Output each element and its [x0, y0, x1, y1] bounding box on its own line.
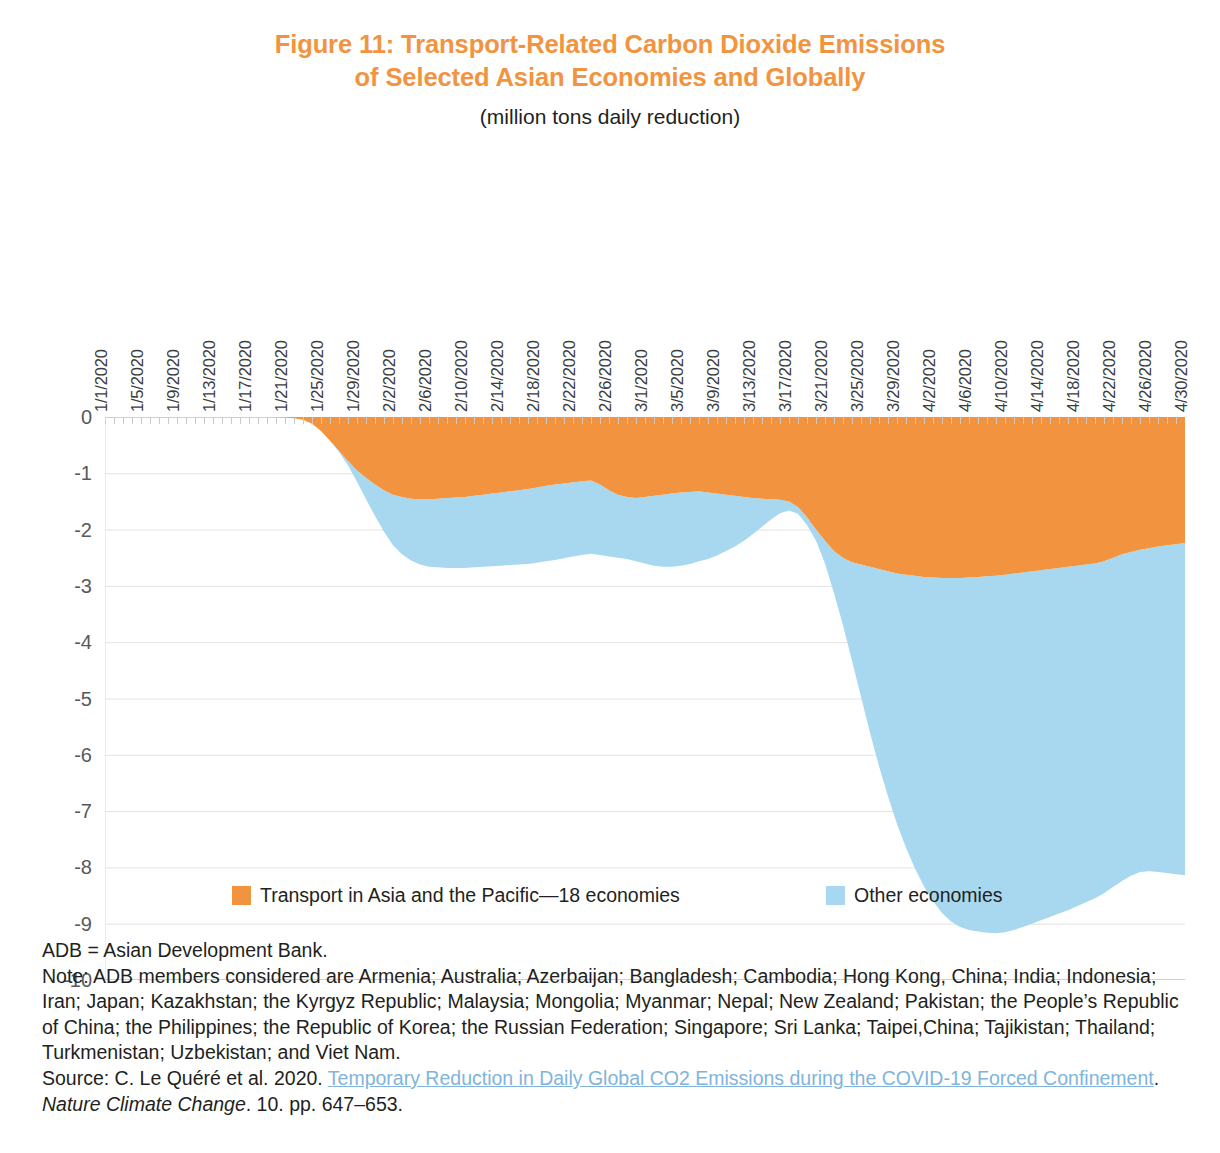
- source-link[interactable]: Temporary Reduction in Daily Global CO2 …: [328, 1067, 1154, 1089]
- x-tick-label: 3/25/2020: [848, 340, 867, 412]
- x-tick-label: 2/6/2020: [416, 349, 435, 412]
- x-tick-label: 3/5/2020: [668, 349, 687, 412]
- y-tick-label: -8: [74, 856, 92, 879]
- x-tick-label: 4/6/2020: [956, 349, 975, 412]
- figure-title-block: Figure 11: Transport-Related Carbon Diox…: [0, 0, 1220, 130]
- figure-title: Figure 11: Transport-Related Carbon Diox…: [0, 28, 1220, 94]
- members-note: Note: ADB members considered are Armenia…: [42, 964, 1192, 1066]
- x-tick-label: 4/30/2020: [1172, 340, 1191, 412]
- x-tick-label: 3/13/2020: [740, 340, 759, 412]
- x-tick-label: 1/1/2020: [92, 349, 111, 412]
- x-axis-tick-labels: 1/1/20201/5/20201/9/20201/13/20201/17/20…: [105, 302, 1185, 414]
- y-tick-label: -6: [74, 743, 92, 766]
- x-tick-label: 2/14/2020: [488, 340, 507, 412]
- x-tick-label: 4/22/2020: [1100, 340, 1119, 412]
- x-tick-label: 2/22/2020: [560, 340, 579, 412]
- x-tick-label: 2/10/2020: [452, 340, 471, 412]
- y-tick-label: -5: [74, 687, 92, 710]
- x-tick-label: 2/18/2020: [524, 340, 543, 412]
- x-tick-label: 4/18/2020: [1064, 340, 1083, 412]
- y-tick-label: -3: [74, 574, 92, 597]
- x-tick-label: 1/29/2020: [344, 340, 363, 412]
- x-tick-label: 4/10/2020: [992, 340, 1011, 412]
- x-tick-label: 3/1/2020: [632, 349, 651, 412]
- legend-label-transport-asia-pacific: Transport in Asia and the Pacific—18 eco…: [260, 884, 680, 907]
- chart-legend: Transport in Asia and the Pacific—18 eco…: [0, 884, 1220, 918]
- x-tick-label: 3/29/2020: [884, 340, 903, 412]
- legend-item-transport-asia-pacific: Transport in Asia and the Pacific—18 eco…: [232, 884, 680, 907]
- source-suffix: . 10. pp. 647–653.: [246, 1093, 403, 1115]
- y-tick-label: -1: [74, 462, 92, 485]
- x-tick-label: 3/17/2020: [776, 340, 795, 412]
- figure-notes: ADB = Asian Development Bank. Note: ADB …: [42, 938, 1192, 1117]
- x-tick-label: 3/9/2020: [704, 349, 723, 412]
- x-tick-label: 4/26/2020: [1136, 340, 1155, 412]
- x-tick-label: 1/21/2020: [272, 340, 291, 412]
- x-tick-label: 1/9/2020: [164, 349, 183, 412]
- figure-title-line-1: Figure 11: Transport-Related Carbon Diox…: [0, 28, 1220, 61]
- x-tick-label: 3/21/2020: [812, 340, 831, 412]
- legend-swatch-blue: [826, 886, 845, 905]
- y-tick-label: -7: [74, 800, 92, 823]
- x-tick-label: 1/25/2020: [308, 340, 327, 412]
- y-tick-label: -4: [74, 631, 92, 654]
- source-journal: Nature Climate Change: [42, 1093, 246, 1115]
- source-prefix: Source: C. Le Quéré et al. 2020.: [42, 1067, 328, 1089]
- legend-item-other-economies: Other economies: [826, 884, 1003, 907]
- x-tick-label: 2/26/2020: [596, 340, 615, 412]
- figure-title-line-2: of Selected Asian Economies and Globally: [0, 61, 1220, 94]
- figure-subtitle: (million tons daily reduction): [0, 104, 1220, 130]
- x-axis-ticks: [106, 417, 1186, 424]
- x-tick-label: 1/17/2020: [236, 340, 255, 412]
- y-tick-label: -2: [74, 518, 92, 541]
- legend-swatch-orange: [232, 886, 251, 905]
- legend-label-other-economies: Other economies: [854, 884, 1003, 907]
- source-note: Source: C. Le Quéré et al. 2020. Tempora…: [42, 1066, 1192, 1117]
- y-tick-label: 0: [81, 406, 92, 429]
- x-tick-label: 2/2/2020: [380, 349, 399, 412]
- chart-container: 1/1/20201/5/20201/9/20201/13/20201/17/20…: [0, 142, 1220, 862]
- x-tick-label: 1/13/2020: [200, 340, 219, 412]
- abbreviation-note: ADB = Asian Development Bank.: [42, 938, 1192, 964]
- x-tick-label: 1/5/2020: [128, 349, 147, 412]
- x-tick-label: 4/14/2020: [1028, 340, 1047, 412]
- source-after-link: .: [1154, 1067, 1159, 1089]
- x-tick-label: 4/2/2020: [920, 349, 939, 412]
